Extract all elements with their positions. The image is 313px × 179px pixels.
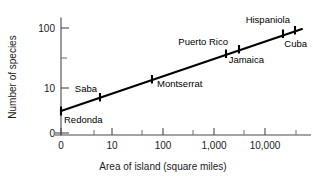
- x-axis-title: Area of island (square miles): [99, 161, 226, 172]
- x-tick-label-100: 100: [155, 140, 172, 151]
- point-label-cuba: Cuba: [284, 38, 307, 49]
- y-tick-label-10: 10: [44, 83, 56, 94]
- x-tick-label-0: 0: [58, 140, 64, 151]
- point-label-saba: Saba: [75, 83, 98, 94]
- y-tick-label-0: 0: [49, 128, 55, 139]
- x-axis: [55, 128, 311, 135]
- species-area-chart: 100 10 0 0 10 100 1,000 10,000 Area of i…: [0, 0, 313, 179]
- x-tick-label-1000: 1,000: [201, 140, 226, 151]
- x-tick-label-10000: 10,000: [250, 140, 281, 151]
- point-label-jamaica: Jamaica: [229, 54, 265, 65]
- point-label-puerto-rico: Puerto Rico: [178, 36, 228, 47]
- point-label-redonda: Redonda: [64, 114, 103, 125]
- y-tick-label-100: 100: [38, 23, 55, 34]
- chart-canvas: 100 10 0 0 10 100 1,000 10,000 Area of i…: [0, 0, 313, 179]
- x-tick-label-10: 10: [106, 140, 118, 151]
- y-axis-title: Number of species: [7, 35, 18, 118]
- point-label-hispaniola: Hispaniola: [246, 14, 291, 25]
- point-label-montserrat: Montserrat: [157, 78, 203, 89]
